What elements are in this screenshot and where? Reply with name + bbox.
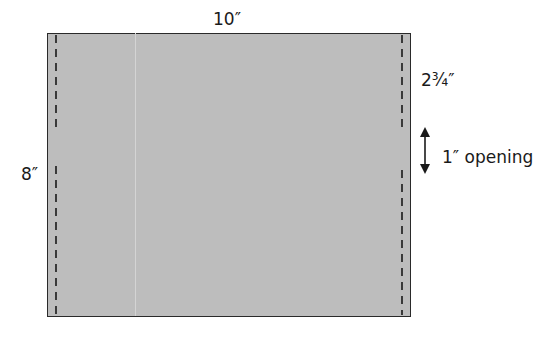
height-label: 8″ [21,166,38,183]
stitch-lines-overlay [0,0,557,340]
seam-length-label: 2¾″ [421,72,455,89]
double-arrow-icon [420,127,430,174]
width-label: 10″ [213,11,241,28]
opening-label: 1″ opening [442,149,533,166]
